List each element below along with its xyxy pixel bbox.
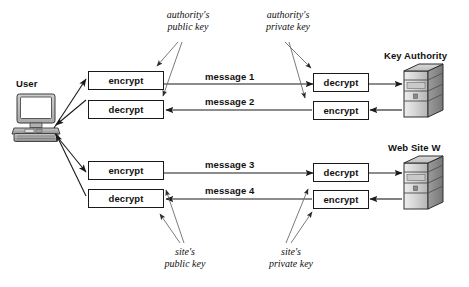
key-authority-label: Key Authority — [384, 50, 447, 61]
label-site-private-key: site's private key — [256, 246, 326, 269]
pointer-authority-private-key-to-decrypt — [285, 42, 311, 68]
box-user-decrypt-authority[interactable]: decrypt — [88, 100, 164, 119]
box-authority-decrypt[interactable]: decrypt — [313, 73, 369, 92]
label-site-public-key: site's public key — [152, 246, 218, 269]
box-site-encrypt[interactable]: encrypt — [313, 190, 369, 209]
authority-public-key-line-1: authority's — [155, 9, 221, 21]
authority-private-key-line-2: private key — [253, 21, 323, 33]
pointer-site-private-key-to-encrypt — [291, 212, 312, 243]
label-message-1: message 1 — [205, 71, 255, 82]
box-user-encrypt-authority[interactable]: encrypt — [88, 71, 164, 90]
label-authority-private-key: authority's private key — [253, 9, 323, 32]
label-message-4: message 4 — [205, 185, 255, 196]
arrow-decrypt-authority-to-user — [56, 100, 86, 125]
pointer-authority-private-key-to-encrypt — [289, 42, 305, 98]
box-site-decrypt[interactable]: decrypt — [313, 163, 369, 182]
box-user-decrypt-site[interactable]: decrypt — [88, 189, 164, 208]
site-private-key-line-2: private key — [256, 258, 326, 270]
label-message-2: message 2 — [205, 96, 255, 107]
diagram-canvas: User Key Authority Web Site W encrypt de… — [0, 0, 469, 287]
box-authority-encrypt[interactable]: encrypt — [313, 101, 369, 120]
server-tower-icon-key-authority — [404, 64, 448, 124]
pointer-authority-public-key-to-decrypt — [163, 42, 182, 96]
site-public-key-line-1: site's — [152, 246, 218, 258]
authority-public-key-line-2: public key — [155, 21, 221, 33]
user-label: User — [16, 78, 38, 89]
arrow-user-to-encrypt-site — [55, 134, 86, 172]
pointer-site-public-key-to-decrypt — [160, 214, 180, 243]
server-tower-icon-web-site — [404, 156, 443, 209]
arrow-decrypt-site-to-user — [56, 134, 86, 196]
authority-private-key-line-1: authority's — [253, 9, 323, 21]
web-site-label: Web Site W — [388, 142, 441, 153]
site-private-key-line-1: site's — [256, 246, 326, 258]
label-authority-public-key: authority's public key — [155, 9, 221, 32]
label-message-3: message 3 — [205, 159, 255, 170]
box-user-encrypt-site[interactable]: encrypt — [88, 161, 164, 180]
desktop-computer-icon — [12, 94, 60, 142]
site-public-key-line-2: public key — [152, 258, 218, 270]
